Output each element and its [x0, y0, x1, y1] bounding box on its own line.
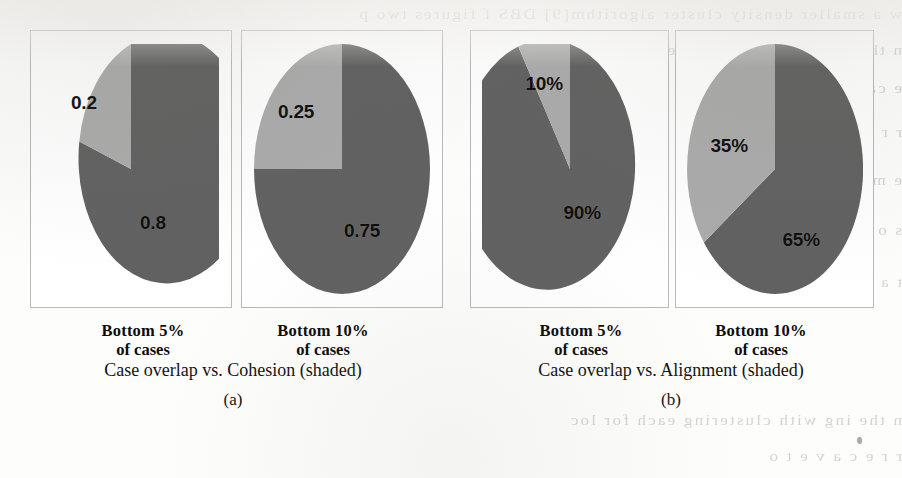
subcaption-row-a: Bottom 5% of cases Bottom 10% of cases	[18, 322, 448, 359]
panel-b-caption: Case overlap vs. Alignment (shaded)	[455, 360, 887, 381]
subcaption-a1-line1: Bottom 5%	[63, 322, 223, 341]
subcaption-a2-line1: Bottom 10%	[243, 322, 403, 341]
pie-label-shaded: 0.25	[278, 101, 314, 123]
chart-box-b2: 35% 65%	[675, 30, 874, 308]
caption-group-b: Bottom 5% of cases Bottom 10% of cases C…	[455, 322, 887, 410]
scan-speck	[857, 437, 862, 444]
pie-chart-b2: 35% 65%	[687, 44, 863, 294]
subcaption-row-b: Bottom 5% of cases Bottom 10% of cases	[455, 322, 887, 359]
panel-a-letter: (a)	[18, 390, 448, 410]
subcaption-b2-line1: Bottom 10%	[681, 322, 841, 341]
panel-group-b: 10% 90% 35% 65%	[470, 30, 874, 308]
pie-svg	[687, 44, 863, 294]
panel-group-a: 0.2 0.8 0.25 0.75	[30, 30, 443, 308]
subcaption-b1: Bottom 5% of cases	[501, 322, 661, 359]
pie-chart-b1: 10% 90%	[482, 44, 658, 294]
subcaption-b2-line2: of cases	[681, 341, 841, 360]
pie-label-unshaded: 90%	[564, 202, 601, 224]
pie-label-unshaded: 0.8	[140, 212, 166, 234]
pie-svg	[43, 44, 219, 294]
pie-label-shaded: 35%	[711, 135, 748, 157]
panel-a-caption: Case overlap vs. Cohesion (shaded)	[18, 360, 448, 381]
pie-svg	[254, 44, 430, 294]
pie-label-unshaded: 0.75	[344, 220, 380, 242]
pie-label-shaded: 0.2	[71, 92, 97, 114]
chart-box-a2: 0.25 0.75	[241, 30, 443, 308]
subcaption-a2-line2: of cases	[243, 341, 403, 360]
subcaption-b2: Bottom 10% of cases	[681, 322, 841, 359]
chart-box-b1: 10% 90%	[470, 30, 669, 308]
subcaption-a1: Bottom 5% of cases	[63, 322, 223, 359]
pie-chart-a1: 0.2 0.8	[43, 44, 219, 294]
panel-b-letter: (b)	[455, 390, 887, 410]
pie-label-unshaded: 65%	[783, 229, 820, 251]
caption-group-a: Bottom 5% of cases Bottom 10% of cases C…	[18, 322, 448, 410]
pie-label-shaded: 10%	[526, 73, 563, 95]
subcaption-b1-line2: of cases	[501, 341, 661, 360]
subcaption-a2: Bottom 10% of cases	[243, 322, 403, 359]
subcaption-a1-line2: of cases	[63, 341, 223, 360]
subcaption-b1-line1: Bottom 5%	[501, 322, 661, 341]
pie-chart-a2: 0.25 0.75	[254, 44, 430, 294]
pie-svg	[482, 44, 658, 294]
chart-box-a1: 0.2 0.8	[30, 30, 232, 308]
